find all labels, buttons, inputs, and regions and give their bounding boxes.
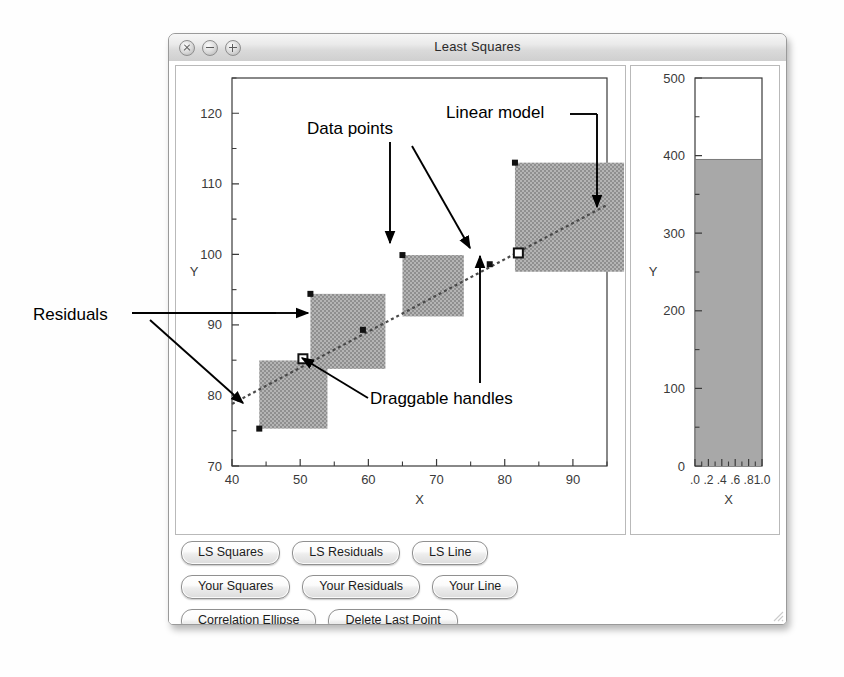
button-row-ls: LS Squares LS Residuals LS Line xyxy=(175,541,780,565)
annotation-label-data-points: Data points xyxy=(307,119,393,139)
svg-text:500: 500 xyxy=(663,71,685,86)
svg-text:90: 90 xyxy=(208,317,222,332)
your-squares-button[interactable]: Your Squares xyxy=(181,575,290,599)
scatter-plot-svg[interactable]: 708090100110120405060708090YX xyxy=(176,66,625,534)
svg-text:.2: .2 xyxy=(703,473,713,487)
resize-grip-icon[interactable] xyxy=(770,608,784,622)
annotation-label-draggable-handles: Draggable handles xyxy=(370,389,513,409)
svg-text:X: X xyxy=(415,492,424,507)
scatter-plot-pane[interactable]: 708090100110120405060708090YX xyxy=(175,65,626,535)
svg-text:.6: .6 xyxy=(730,473,740,487)
svg-text:60: 60 xyxy=(361,472,375,487)
page-background: Least Squares 70809010011012040506070809… xyxy=(0,0,844,677)
svg-text:400: 400 xyxy=(663,148,685,163)
delete-last-point-button[interactable]: Delete Last Point xyxy=(328,609,457,625)
annotation-label-linear-model: Linear model xyxy=(446,103,544,123)
svg-text:50: 50 xyxy=(293,472,307,487)
svg-text:300: 300 xyxy=(663,226,685,241)
svg-text:100: 100 xyxy=(200,247,222,262)
window-titlebar[interactable]: Least Squares xyxy=(169,34,786,62)
window-content: 708090100110120405060708090YX 0100200300… xyxy=(169,61,786,624)
window-title: Least Squares xyxy=(169,39,786,54)
svg-text:.0: .0 xyxy=(690,473,700,487)
svg-text:110: 110 xyxy=(201,176,222,191)
svg-text:90: 90 xyxy=(566,472,580,487)
ls-line-button[interactable]: LS Line xyxy=(412,541,488,565)
svg-text:100: 100 xyxy=(663,381,685,396)
svg-text:80: 80 xyxy=(497,472,511,487)
your-line-button[interactable]: Your Line xyxy=(432,575,518,599)
svg-text:200: 200 xyxy=(663,303,685,318)
bar-plot-svg: 0100200300400500.0.2.4.6.81.0YX xyxy=(631,66,779,534)
button-row-your: Your Squares Your Residuals Your Line xyxy=(175,575,780,599)
bar-plot-pane[interactable]: 0100200300400500.0.2.4.6.81.0YX xyxy=(630,65,780,535)
svg-text:Y: Y xyxy=(190,264,199,279)
svg-text:1.0: 1.0 xyxy=(754,473,771,487)
svg-text:40: 40 xyxy=(225,472,239,487)
ls-squares-button[interactable]: LS Squares xyxy=(181,541,280,565)
ls-residuals-button[interactable]: LS Residuals xyxy=(292,541,400,565)
svg-text:0: 0 xyxy=(678,459,685,474)
button-bar: LS Squares LS Residuals LS Line Your Squ… xyxy=(175,541,780,625)
svg-text:80: 80 xyxy=(208,388,222,403)
svg-text:.4: .4 xyxy=(717,473,727,487)
svg-text:120: 120 xyxy=(200,106,222,121)
correlation-ellipse-button[interactable]: Correlation Ellipse xyxy=(181,609,316,625)
svg-text:70: 70 xyxy=(429,472,443,487)
svg-text:Y: Y xyxy=(649,264,658,279)
annotation-label-residuals: Residuals xyxy=(33,305,108,325)
svg-text:70: 70 xyxy=(208,459,222,474)
plot-panes: 708090100110120405060708090YX 0100200300… xyxy=(175,65,780,535)
svg-text:X: X xyxy=(724,492,733,507)
your-residuals-button[interactable]: Your Residuals xyxy=(302,575,420,599)
button-row-tools: Correlation Ellipse Delete Last Point xyxy=(175,609,780,625)
svg-text:.8: .8 xyxy=(744,473,754,487)
